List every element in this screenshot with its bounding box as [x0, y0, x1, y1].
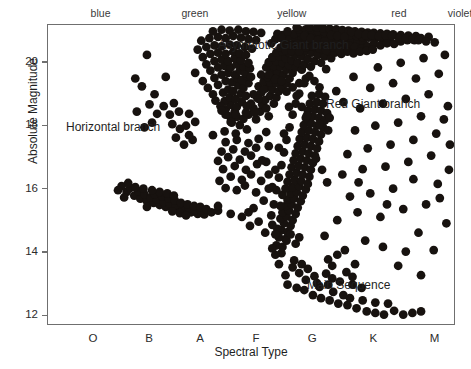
data-point — [251, 108, 260, 117]
data-point — [300, 79, 309, 88]
data-point — [275, 143, 284, 152]
data-point — [281, 271, 290, 280]
data-point — [288, 110, 297, 119]
data-point — [249, 28, 258, 37]
data-point — [185, 131, 194, 140]
data-point — [286, 230, 295, 239]
data-point — [404, 158, 413, 167]
data-point — [191, 68, 200, 77]
data-point — [396, 58, 405, 67]
data-point — [114, 186, 123, 195]
data-point — [384, 299, 393, 308]
data-point — [368, 45, 377, 54]
data-point — [198, 53, 207, 62]
data-point — [243, 102, 252, 111]
data-point — [351, 260, 360, 269]
data-point — [221, 34, 230, 43]
data-point — [401, 95, 410, 104]
data-point — [322, 65, 331, 74]
data-point — [143, 203, 152, 212]
data-point — [231, 129, 240, 138]
data-point — [351, 126, 360, 135]
data-point — [254, 135, 263, 144]
y-tick-label: 12 — [8, 310, 38, 322]
data-point — [131, 74, 140, 83]
data-point — [182, 121, 191, 130]
data-point — [275, 260, 284, 269]
data-point — [335, 277, 344, 286]
data-point — [276, 202, 285, 211]
data-point — [148, 118, 157, 127]
y-tick-label: 16 — [8, 183, 38, 195]
data-point — [328, 261, 337, 270]
data-point — [243, 125, 252, 134]
data-point — [197, 36, 206, 45]
data-point — [217, 25, 226, 34]
data-point — [346, 192, 355, 201]
data-point — [335, 46, 344, 55]
data-point — [143, 51, 152, 60]
data-point — [258, 156, 267, 165]
data-point — [217, 147, 226, 156]
data-point — [221, 184, 230, 193]
data-point — [333, 216, 342, 225]
data-point — [309, 291, 318, 300]
data-point — [277, 34, 286, 43]
y-tick-label: 14 — [8, 246, 38, 258]
data-point — [277, 77, 286, 86]
data-point — [366, 189, 375, 198]
data-point — [434, 69, 443, 78]
data-point — [268, 220, 277, 229]
data-point — [257, 70, 266, 79]
data-point — [261, 228, 270, 237]
data-point — [292, 283, 301, 292]
data-point — [168, 120, 177, 129]
data-point — [191, 118, 200, 127]
data-point — [328, 274, 337, 283]
data-point — [373, 63, 382, 72]
data-point — [220, 127, 229, 136]
data-point — [386, 140, 395, 149]
data-point — [257, 28, 266, 37]
data-point — [414, 228, 423, 237]
data-point — [259, 85, 268, 94]
y-tick-label: 20 — [8, 56, 38, 68]
data-point — [444, 102, 453, 111]
data-point — [185, 109, 194, 118]
data-point — [172, 133, 181, 142]
data-point — [225, 26, 234, 35]
data-point — [354, 178, 363, 187]
data-point — [169, 191, 178, 200]
data-point — [214, 202, 223, 211]
data-point — [435, 194, 444, 203]
data-point — [408, 309, 417, 318]
data-point — [414, 36, 423, 45]
data-point — [155, 187, 164, 196]
data-point — [215, 176, 224, 185]
data-point — [409, 136, 418, 145]
data-point — [315, 120, 324, 129]
data-point — [267, 211, 276, 220]
data-point — [283, 280, 292, 289]
data-point — [371, 121, 380, 130]
data-point — [390, 306, 399, 315]
data-point — [193, 45, 202, 54]
data-point — [175, 107, 184, 116]
data-point — [244, 139, 253, 148]
data-point — [427, 151, 436, 160]
data-point — [380, 310, 389, 319]
data-point — [334, 299, 343, 308]
data-point — [417, 271, 426, 280]
data-point — [242, 165, 251, 174]
data-point — [439, 115, 448, 124]
data-point — [371, 298, 380, 307]
data-point — [252, 143, 261, 152]
data-point — [362, 307, 371, 316]
top-color-label: red — [391, 8, 406, 19]
data-point — [246, 221, 255, 230]
data-point — [303, 180, 312, 189]
data-point — [357, 283, 366, 292]
data-point — [313, 279, 322, 288]
x-tick-label: A — [196, 333, 204, 345]
data-point — [332, 87, 341, 96]
